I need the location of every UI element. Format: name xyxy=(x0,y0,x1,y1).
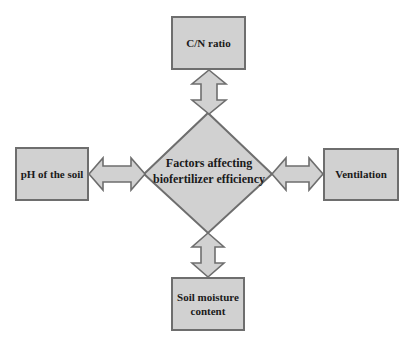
center-label-line1: Factors affecting xyxy=(148,155,270,171)
node-ventilation-label: Ventilation xyxy=(335,167,387,181)
node-soil-moisture-label-line1: Soil moisture xyxy=(177,290,239,304)
center-label-line2: biofertilizer efficiency xyxy=(148,171,270,187)
node-cn-ratio-label: C/N ratio xyxy=(186,36,230,50)
arrow-top-double xyxy=(192,70,226,114)
node-ph-of-soil-label: pH of the soil xyxy=(21,167,84,181)
center-label: Factors affecting biofertilizer efficien… xyxy=(148,155,270,187)
arrow-right-double xyxy=(272,158,323,190)
arrow-left-double xyxy=(89,158,145,190)
node-cn-ratio: C/N ratio xyxy=(171,16,246,70)
diagram-canvas: C/N ratio pH of the soil Ventilation Soi… xyxy=(0,0,412,345)
node-ph-of-soil: pH of the soil xyxy=(15,147,89,201)
node-soil-moisture-label-line2: content xyxy=(191,304,226,318)
arrow-bottom-double xyxy=(192,233,224,277)
node-ventilation: Ventilation xyxy=(323,148,399,201)
node-soil-moisture: Soil moisture content xyxy=(171,277,245,331)
